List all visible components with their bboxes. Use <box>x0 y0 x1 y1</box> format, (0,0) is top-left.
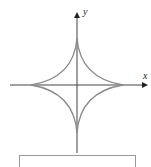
y-axis-arrow-icon <box>74 12 80 18</box>
x-axis-arrow-icon <box>142 82 148 88</box>
x-axis-label: x <box>143 70 147 81</box>
astroid-diagram <box>0 0 151 167</box>
caption-box <box>19 155 136 167</box>
y-axis-label: y <box>83 6 87 17</box>
